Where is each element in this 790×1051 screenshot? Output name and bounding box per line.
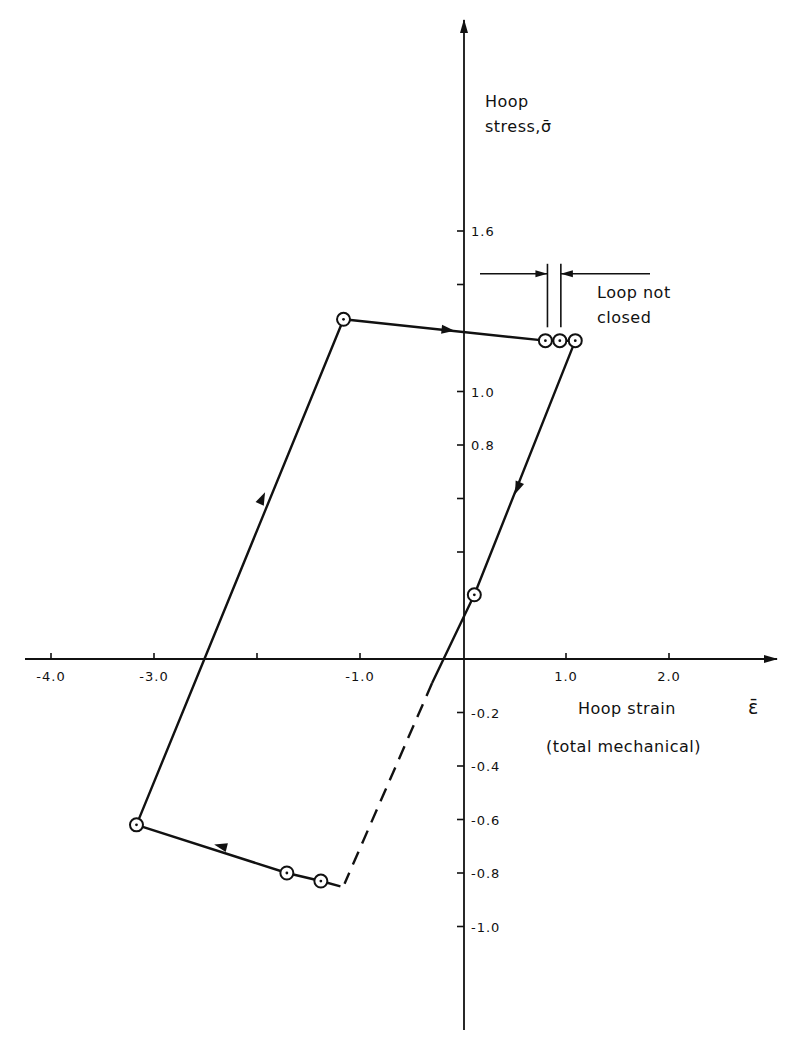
data-point-dot (544, 339, 547, 342)
x-axis-label-symbol: ε̄ (748, 696, 759, 718)
y-tick-label: -1.0 (471, 920, 500, 935)
loop-not-closed-line2: closed (597, 308, 651, 327)
y-axis-label-line1: Hoop (485, 92, 529, 111)
dimension-arrow-right (535, 270, 547, 277)
data-point-dot (558, 339, 561, 342)
series-hysteresis-loop-dashed (345, 683, 433, 884)
data-point-dot (319, 880, 322, 883)
direction-arrow (441, 325, 455, 335)
x-axis-label-line1: Hoop strain (578, 699, 676, 718)
data-point-dot (135, 823, 138, 826)
data-point-dot (574, 339, 577, 342)
x-tick-label: -1.0 (345, 669, 374, 684)
y-tick-label: -0.2 (471, 706, 500, 721)
y-tick-label: -0.6 (471, 813, 500, 828)
series-hysteresis-loop-solid (136, 319, 575, 886)
x-tick-label: -3.0 (139, 669, 168, 684)
x-axis-label-line2: (total mechanical) (546, 737, 701, 756)
y-tick-label: -0.8 (471, 866, 500, 881)
y-tick-label: 1.0 (471, 385, 495, 400)
y-tick-label: 0.8 (471, 438, 495, 453)
loop-not-closed-line1: Loop not (597, 283, 671, 302)
y-tick-label: 1.6 (471, 224, 495, 239)
x-tick-label: -4.0 (36, 669, 65, 684)
y-tick-label: -0.4 (471, 759, 500, 774)
hysteresis-chart: -4.0-3.0-1.01.02.01.61.00.8-0.2-0.4-0.6-… (0, 0, 790, 1051)
x-tick-label: 1.0 (554, 669, 578, 684)
x-tick-label: 2.0 (657, 669, 681, 684)
data-point-dot (285, 872, 288, 875)
data-point-dot (342, 318, 345, 321)
dimension-arrow-left (561, 270, 573, 277)
data-point-dot (473, 593, 476, 596)
y-axis-label-line2: stress,σ̄ (485, 117, 552, 136)
direction-arrow (511, 481, 524, 496)
